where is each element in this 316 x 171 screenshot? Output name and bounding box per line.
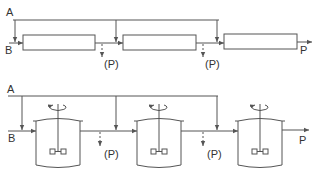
top-diagram: A B (P) (P) P bbox=[5, 6, 312, 70]
feed-b-label: B bbox=[5, 44, 12, 56]
stirred-tank-1 bbox=[33, 104, 83, 168]
stirred-tank-3 bbox=[235, 104, 285, 168]
impeller-blade-left bbox=[50, 149, 55, 154]
feed-a-label: A bbox=[7, 83, 15, 95]
product-label: P bbox=[300, 44, 307, 56]
impeller-blade-left bbox=[151, 149, 156, 154]
tubular-reactor-1 bbox=[23, 35, 95, 50]
impeller-blade-right bbox=[263, 149, 268, 154]
tubular-reactor-2 bbox=[123, 35, 196, 50]
impeller-blade-right bbox=[162, 149, 167, 154]
side-draw-label-1: (P) bbox=[104, 58, 119, 70]
process-diagram: A B (P) (P) P A B bbox=[0, 0, 316, 171]
impeller-blade-left bbox=[252, 149, 257, 154]
feed-a-label: A bbox=[6, 6, 14, 18]
feed-b-label: B bbox=[8, 132, 15, 144]
side-draw-label-2: (P) bbox=[207, 148, 222, 160]
bottom-diagram: A B bbox=[7, 83, 309, 168]
tubular-reactor-3 bbox=[224, 34, 297, 49]
side-draw-label-1: (P) bbox=[104, 148, 119, 160]
side-draw-label-2: (P) bbox=[205, 58, 220, 70]
stirred-tank-2 bbox=[134, 104, 184, 168]
impeller-blade-right bbox=[61, 149, 66, 154]
product-label: P bbox=[299, 134, 306, 146]
